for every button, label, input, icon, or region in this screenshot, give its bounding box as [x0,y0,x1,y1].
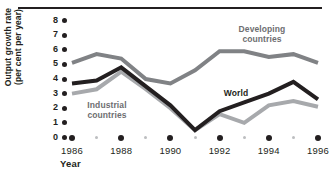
series-label-developing-line2: countries [224,34,300,44]
x-tick-label: 1990 [153,145,187,156]
x-tick-label: 1988 [104,145,138,156]
x-tick-label: 1996 [301,145,334,156]
chart-figure: Output growth rate (per cent per year) 0… [0,0,334,174]
series-label-industrial-countries: Industrial countries [70,100,144,120]
y-tick-dot [62,18,67,23]
x-tick-dot-minor [194,136,197,139]
x-tick-dot-major [118,135,124,141]
x-tick-dot-minor [243,136,246,139]
x-tick-dot-major [69,135,75,141]
series-label-developing-line1: Developing [224,24,300,34]
series-label-industrial-line1: Industrial [70,100,144,110]
x-tick-dot-minor [292,136,295,139]
y-tick-dot [62,135,67,140]
x-tick-label: 1992 [203,145,237,156]
series-label-world: World [216,88,256,98]
x-tick-dot-major [266,135,272,141]
y-tick-label: 6 [46,44,58,54]
x-tick-label: 1986 [55,145,89,156]
y-tick-dot [62,62,67,67]
y-tick-label: 0 [46,132,58,142]
y-tick-label: 3 [46,88,58,98]
y-tick-label: 2 [46,102,58,112]
y-tick-dot [62,106,67,111]
y-tick-label: 8 [46,15,58,25]
x-axis-label: Year [60,158,81,169]
x-tick-dot-major [315,135,321,141]
y-tick-label: 1 [46,117,58,127]
series-label-industrial-line2: countries [70,110,144,120]
x-tick-dot-major [167,135,173,141]
series-label-world-line1: World [216,88,256,98]
y-tick-label: 7 [46,29,58,39]
y-tick-dot [62,77,67,82]
y-tick-label: 4 [46,73,58,83]
x-tick-label: 1994 [252,145,286,156]
series-line-world [72,67,318,130]
series-label-developing-countries: Developing countries [224,24,300,44]
y-tick-label: 5 [46,58,58,68]
x-tick-dot-major [217,135,223,141]
y-tick-dot [62,33,67,38]
